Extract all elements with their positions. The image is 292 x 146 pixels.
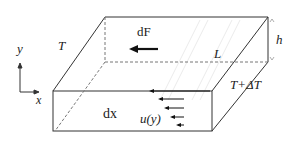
force-label: dF — [137, 24, 151, 39]
axis-x-label: x — [35, 93, 42, 107]
length-label: L — [213, 46, 221, 61]
temperature-right-label: T+ΔT — [230, 77, 262, 92]
force-arrow-icon — [129, 45, 158, 53]
axis-y-label: y — [15, 41, 23, 56]
background-hatch — [160, 20, 240, 100]
height-label: h — [276, 32, 283, 47]
box-hidden-edges — [55, 17, 268, 131]
temperature-left-label: T — [58, 38, 66, 53]
axes-icon — [18, 63, 39, 94]
height-dimension-marks — [270, 19, 274, 60]
flow-box-diagram: y x h T dF L T+ΔT dx u(y) — [0, 0, 292, 146]
element-dx-label: dx — [103, 106, 117, 121]
velocity-label: u(y) — [140, 111, 161, 126]
